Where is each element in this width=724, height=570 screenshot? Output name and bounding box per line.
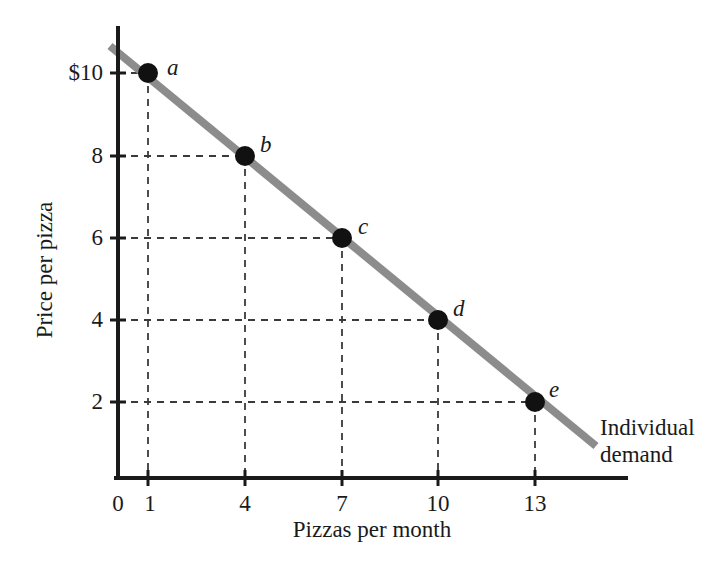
x-tick-label-1: 1 (144, 492, 156, 515)
curve-annotation: Individual demand (600, 414, 695, 468)
x-tick-label-7: 7 (336, 492, 348, 515)
demand-curve-figure: $10 8 6 4 2 0 1 4 7 10 13 a b c d e Indi… (0, 0, 724, 570)
x-tick-label-4: 4 (239, 492, 251, 515)
data-point-c (332, 228, 352, 248)
x-tick-label-13: 13 (524, 492, 547, 515)
data-point-a (138, 63, 158, 83)
curve-annotation-line2: demand (600, 441, 695, 468)
x-tick-label-10: 10 (427, 492, 450, 515)
demand-curve-line (110, 46, 596, 446)
y-tick-label-2-text: 2 (92, 390, 104, 413)
plot-canvas (0, 0, 724, 570)
data-point-b (235, 146, 255, 166)
y-tick-label-10-text: $10 (69, 61, 104, 84)
point-label-c: c (358, 215, 368, 238)
y-axis-title: Price per pizza (33, 202, 56, 339)
guide-lines (118, 73, 535, 478)
point-label-b: b (260, 133, 272, 156)
y-tick-label-8-text: 8 (92, 144, 104, 167)
point-label-a: a (167, 56, 179, 79)
data-point-e (525, 392, 545, 412)
point-label-d: d (453, 297, 465, 320)
x-tick-label-0: 0 (112, 492, 124, 515)
curve-annotation-line1: Individual (600, 414, 695, 441)
point-label-e: e (549, 378, 559, 401)
x-axis-title: Pizzas per month (293, 518, 451, 541)
data-point-d (428, 310, 448, 330)
y-tick-label-6-text: 6 (92, 226, 104, 249)
y-tick-label-4-text: 4 (92, 308, 104, 331)
